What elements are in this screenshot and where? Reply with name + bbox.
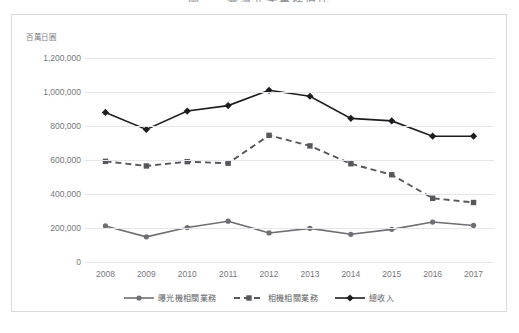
y-axis-tick-labels: 1,200,0001,000,000800,000600,000400,0002… (11, 58, 81, 262)
y-axis-tick: 0 (15, 257, 81, 267)
series-line (105, 135, 473, 202)
series-line (105, 221, 473, 237)
data-point-marker (266, 133, 271, 138)
legend-item[interactable]: 曝光機相關業務 (124, 292, 217, 303)
data-point-marker (102, 109, 109, 116)
data-point-marker (306, 93, 313, 100)
x-axis-tick: 2013 (300, 269, 319, 279)
legend-label: 曝光機相關業務 (158, 292, 217, 303)
y-axis-tick: 600,000 (15, 155, 81, 165)
data-point-marker (184, 107, 191, 114)
x-axis-tick-labels: 2008200920102011201220132014201520162017 (85, 269, 494, 283)
gridline (85, 92, 494, 93)
x-axis-tick: 2012 (260, 269, 279, 279)
legend-item[interactable]: 總收入 (335, 292, 394, 303)
gridline (85, 126, 494, 127)
legend-swatch-square-icon (234, 293, 264, 303)
data-point-marker (347, 115, 354, 122)
data-point-marker (225, 161, 230, 166)
x-axis-tick: 2010 (178, 269, 197, 279)
y-axis-tick: 1,200,000 (15, 53, 81, 63)
data-point-marker (346, 294, 353, 301)
x-axis-tick: 2009 (137, 269, 156, 279)
data-point-marker (430, 196, 435, 201)
y-axis-tick: 1,000,000 (15, 87, 81, 97)
series-line (105, 90, 473, 136)
data-point-marker (225, 102, 232, 109)
x-axis-tick: 2014 (341, 269, 360, 279)
y-axis-unit-label: 百萬日圓 (26, 31, 56, 42)
y-axis-tick: 400,000 (15, 189, 81, 199)
x-axis-tick: 2016 (423, 269, 442, 279)
data-point-marker (144, 234, 149, 239)
x-axis-tick: 2008 (96, 269, 115, 279)
data-point-marker (388, 117, 395, 124)
gridline (85, 228, 494, 229)
data-point-marker (144, 163, 149, 168)
chart-legend: 曝光機相關業務相機相關業務總收入 (11, 292, 507, 303)
data-point-marker (266, 230, 271, 235)
legend-swatch-diamond-icon (335, 293, 365, 303)
data-point-marker (136, 295, 141, 300)
gridline (85, 58, 494, 59)
data-point-marker (307, 143, 312, 148)
x-axis-tick: 2017 (464, 269, 483, 279)
data-point-marker (470, 133, 477, 140)
data-point-marker (348, 232, 353, 237)
gridline (85, 262, 494, 263)
legend-label: 總收入 (369, 292, 394, 303)
y-axis-tick: 200,000 (15, 223, 81, 233)
data-point-marker (471, 200, 476, 205)
chart-page: 圖一 臺灣光學業務佔比 百萬日圓 1,200,0001,000,000800,0… (0, 0, 519, 333)
y-axis-tick: 800,000 (15, 121, 81, 131)
x-axis-tick: 2011 (219, 269, 237, 279)
data-point-marker (348, 161, 353, 166)
legend-item[interactable]: 相機相關業務 (234, 292, 318, 303)
chart-title: 圖一 臺灣光學業務佔比 (0, 0, 519, 2)
gridline (85, 160, 494, 161)
legend-swatch-circle-icon (124, 293, 154, 303)
x-axis-tick: 2015 (382, 269, 401, 279)
data-point-marker (246, 295, 251, 300)
data-point-marker (429, 133, 436, 140)
legend-label: 相機相關業務 (268, 292, 318, 303)
plot-area (85, 58, 494, 262)
gridline (85, 194, 494, 195)
data-point-marker (430, 219, 435, 224)
data-point-marker (226, 219, 231, 224)
data-point-marker (389, 172, 394, 177)
